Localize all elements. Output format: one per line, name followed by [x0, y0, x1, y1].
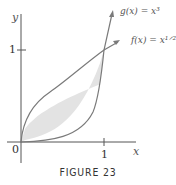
shaded-region	[21, 50, 104, 142]
curve-f-label: f(x) = x¹ᐟ²	[131, 35, 176, 45]
y-axis-label: y	[12, 11, 18, 24]
arrow-g-icon	[109, 10, 114, 17]
figure-canvas	[0, 0, 176, 185]
y-tick-label: 1	[9, 43, 16, 56]
figure-caption: FIGURE 23	[13, 166, 163, 179]
x-axis-label: x	[133, 145, 139, 158]
curve-g-label: g(x) = x³	[120, 6, 160, 16]
origin-label: 0	[12, 143, 19, 156]
x-tick-label: 1	[101, 148, 108, 161]
